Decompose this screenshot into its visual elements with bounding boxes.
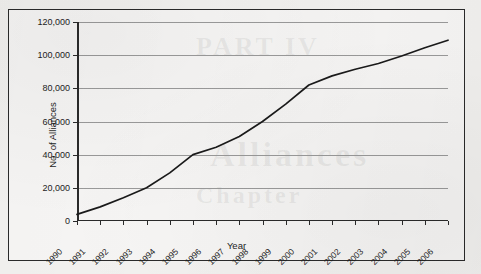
y-axis-tick-label: 80,000 (42, 84, 70, 93)
x-axis-tick (123, 221, 124, 225)
x-axis-tick (378, 221, 379, 225)
x-axis-tick (448, 221, 449, 225)
x-axis-tick (216, 221, 217, 225)
x-axis-tick (147, 221, 148, 225)
x-axis-title: Year (9, 240, 464, 251)
x-axis-tick (425, 221, 426, 225)
chart-figure-border: No. of Alliances Year 020,00040,00060,00… (8, 9, 465, 261)
scanned-page: PART IV Alliances Chapter No. of Allianc… (0, 0, 481, 274)
y-axis-tick-label: 100,000 (37, 51, 70, 60)
x-axis-tick (286, 221, 287, 225)
plot-area: 020,00040,00060,00080,000100,000120,000 … (77, 22, 448, 221)
x-axis-tick (239, 221, 240, 225)
plot-inner: 020,00040,00060,00080,000100,000120,000 … (77, 22, 448, 221)
y-axis-title: No. of Alliances (47, 102, 58, 167)
x-axis-tick (402, 221, 403, 225)
x-axis-tick (355, 221, 356, 225)
x-axis-tick (309, 221, 310, 225)
x-axis-tick (77, 221, 78, 225)
y-axis-tick-label: 20,000 (42, 183, 70, 192)
x-axis-tick (332, 221, 333, 225)
x-axis-tick (193, 221, 194, 225)
x-axis-tick (263, 221, 264, 225)
series-polyline (77, 40, 448, 214)
y-axis-tick-label: 0 (65, 217, 70, 226)
x-axis-tick (100, 221, 101, 225)
y-axis-tick-label: 120,000 (37, 18, 70, 27)
x-axis-tick (170, 221, 171, 225)
data-series-line (77, 22, 448, 221)
